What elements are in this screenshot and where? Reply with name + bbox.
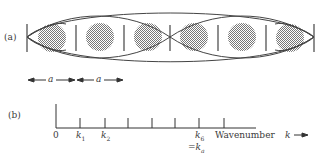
lattice-bars — [27, 24, 314, 52]
spacing-arrows — [28, 78, 123, 82]
atom — [86, 23, 114, 51]
axis-title: Wavenumber — [215, 130, 275, 140]
atom — [228, 23, 256, 51]
axis-symbol: k — [285, 130, 290, 140]
wave-half-lower — [27, 16, 314, 58]
panel-b-label: (b) — [8, 110, 21, 120]
tick-label-k2: k2 — [101, 130, 110, 142]
wave-curves — [27, 13, 314, 62]
tick-label-ka: =ka — [188, 142, 205, 154]
spacing-label-2: a — [96, 74, 101, 84]
tick-label-k1: k1 — [76, 130, 85, 142]
tick-label-k6: k6 — [195, 130, 204, 142]
atom — [134, 23, 162, 51]
wavenumber-axis — [56, 104, 256, 128]
panel-a-label: (a) — [4, 32, 16, 42]
k-arrow — [294, 133, 308, 137]
spacing-label-1: a — [48, 74, 53, 84]
origin-label: 0 — [53, 130, 59, 140]
atom — [180, 23, 208, 51]
